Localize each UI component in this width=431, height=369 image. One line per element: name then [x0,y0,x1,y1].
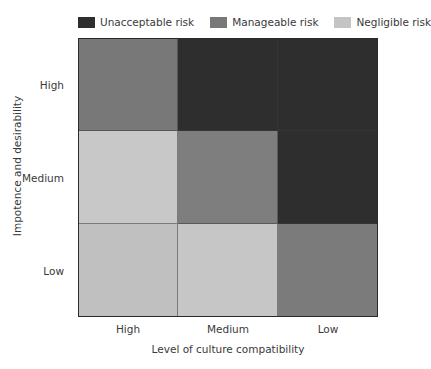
matrix-cell[interactable] [79,39,178,131]
matrix-cell[interactable] [278,131,377,223]
legend-item-label: Negligible risk [356,17,431,28]
legend-swatch-icon [210,17,227,28]
matrix-cell[interactable] [278,39,377,131]
matrix-cell[interactable] [178,224,277,316]
y-axis-title: Impotence and desirability [11,86,23,246]
x-axis-tick-label: Low [278,320,378,338]
legend-item-manageable-risk[interactable]: Manageable risk [210,17,318,28]
x-axis-title: Level of culture compatibility [78,343,378,355]
matrix-cell[interactable] [79,131,178,223]
matrix-cell[interactable] [178,131,277,223]
legend-swatch-icon [334,17,351,28]
x-axis-tick-label: High [78,320,178,338]
matrix-cell[interactable] [178,39,277,131]
risk-matrix-plot [78,38,378,317]
matrix-cell[interactable] [278,224,377,316]
matrix-cell[interactable] [79,224,178,316]
x-axis-tick-labels: High Medium Low [78,320,378,338]
x-axis-tick-label: Medium [178,320,278,338]
legend: Unacceptable risk Manageable risk Neglig… [78,14,378,30]
legend-item-label: Unacceptable risk [100,17,194,28]
legend-item-negligible-risk[interactable]: Negligible risk [334,17,431,28]
legend-item-unacceptable-risk[interactable]: Unacceptable risk [78,17,194,28]
legend-item-label: Manageable risk [232,17,318,28]
legend-swatch-icon [78,17,95,28]
